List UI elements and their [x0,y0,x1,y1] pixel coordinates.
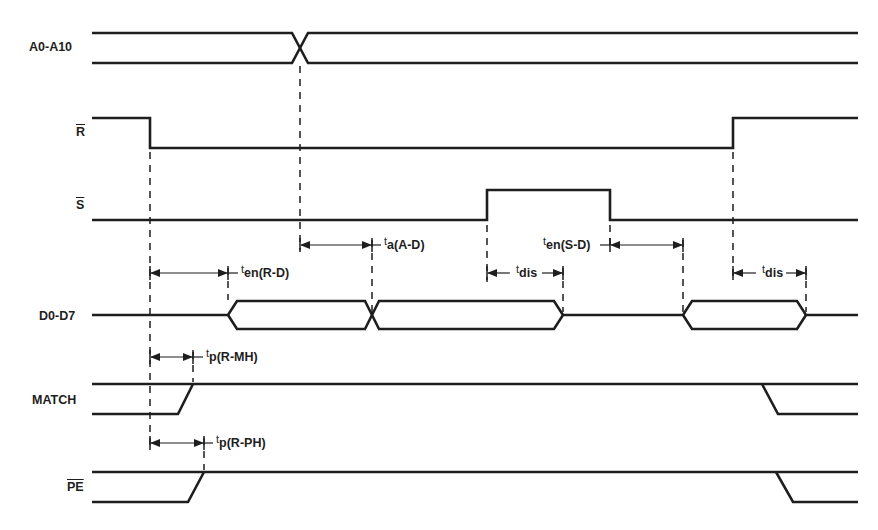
waveform-d0-d7 [92,301,858,329]
timing-label-ten-rd: ten(R-D) [241,266,289,280]
waveform-match [92,384,858,414]
waveform-s [92,190,858,220]
signal-label-r: R [76,125,85,139]
waveform-a0-a10 [92,33,858,63]
waveform-r [92,118,858,148]
timing-diagram-drawing [0,0,878,530]
waveform-pe [92,472,858,502]
signal-label-s: S [76,198,84,212]
timing-label-tdis-1: tdis [516,266,537,280]
signal-label-a0-a10: A0-A10 [29,40,72,54]
timing-label-tp-rph: tp(R-PH) [216,436,266,450]
dimension-ten-sd [600,238,683,252]
dimension-ten-rd [150,266,238,280]
timing-label-ten-sd: ten(S-D) [543,238,591,252]
timing-label-tp-rmh: tp(R-MH) [206,350,258,364]
signal-label-match: MATCH [32,393,76,407]
signal-label-pe: PE [67,480,84,494]
dimension-tp-rph [150,436,213,450]
timing-label-ta-ad: ta(A-D) [384,238,425,252]
signal-label-d0-d7: D0-D7 [39,309,75,323]
dimension-tp-rmh [150,350,203,364]
timing-label-tdis-2: tdis [762,266,783,280]
dimension-ta-ad [300,238,381,252]
